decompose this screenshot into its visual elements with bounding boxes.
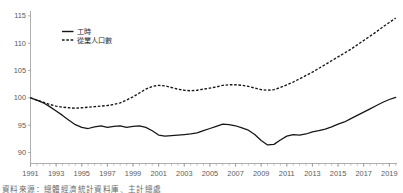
y-tick-label: 105 (14, 66, 26, 75)
x-tick-label: 2017 (355, 169, 371, 178)
x-tick-label: 2011 (279, 169, 295, 178)
x-tick-label: 1995 (74, 169, 90, 178)
y-axis-tick-labels: 9095100105110115 (14, 11, 26, 157)
x-tick-label: 2019 (381, 169, 397, 178)
series-line-1 (31, 97, 396, 145)
x-tick-label: 2013 (304, 169, 320, 178)
x-tick-label: 2003 (176, 169, 192, 178)
line-chart: 9095100105110115 19911993199519971999200… (0, 0, 403, 193)
x-tick-label: 1997 (99, 169, 115, 178)
x-tick-label: 1993 (48, 169, 64, 178)
x-tick-label: 2005 (202, 169, 218, 178)
y-tick-label: 115 (14, 11, 26, 20)
legend-label-2: 從業人口數 (77, 36, 112, 45)
y-tick-label: 90 (18, 148, 26, 157)
y-tick-label: 100 (14, 93, 26, 102)
chart-legend: 工時從業人口數 (62, 27, 112, 45)
x-tick-label: 1991 (22, 169, 38, 178)
x-tick-label: 2009 (253, 169, 269, 178)
chart-source-caption: 資料來源：總體經濟統計資料庫、主計總處 (2, 185, 401, 193)
x-tick-label: 2001 (150, 169, 166, 178)
y-tick-label: 110 (14, 39, 26, 48)
chart-container: 9095100105110115 19911993199519971999200… (0, 0, 403, 193)
x-tick-label: 2007 (227, 169, 243, 178)
x-axis-tick-labels: 1991199319951997199920012003200520072009… (22, 169, 397, 178)
y-tick-label: 95 (18, 121, 26, 130)
x-tick-label: 2015 (330, 169, 346, 178)
x-tick-label: 1999 (125, 169, 141, 178)
